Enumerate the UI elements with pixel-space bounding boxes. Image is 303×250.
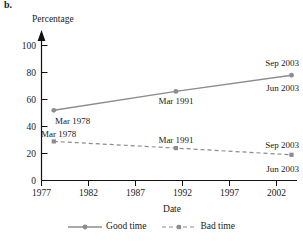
annotation-bad-sep-2003: Sep 2003 — [265, 140, 299, 150]
y-tick-40: 40 — [27, 122, 37, 132]
y-tick-80: 80 — [27, 68, 37, 78]
legend-label-bad-time: Bad time — [200, 222, 235, 232]
legend-item-good-time[interactable]: Good time — [68, 222, 146, 232]
y-axis-ticks — [42, 46, 48, 181]
y-tick-0: 0 — [31, 176, 36, 186]
x-tick-1997: 1997 — [220, 188, 239, 198]
legend-swatch-dashed-icon — [162, 222, 196, 232]
data-point — [52, 139, 56, 143]
x-tick-1977: 1977 — [32, 188, 51, 198]
annotation-good-sep-2003: Sep 2003 — [265, 58, 299, 68]
data-point — [174, 146, 178, 150]
legend-label-good-time: Good time — [106, 222, 146, 232]
x-axis-tick-labels: 1977 1982 1987 1992 1997 2002 — [32, 188, 286, 198]
x-tick-1987: 1987 — [126, 188, 145, 198]
x-axis-ticks — [42, 181, 277, 187]
y-tick-100: 100 — [22, 41, 37, 51]
x-tick-2002: 2002 — [267, 188, 286, 198]
y-tick-20: 20 — [27, 149, 37, 159]
annotation-good-mar-1978: Mar 1978 — [55, 116, 91, 126]
x-axis-title: Date — [163, 204, 181, 214]
data-point — [174, 89, 179, 94]
legend-item-bad-time[interactable]: Bad time — [162, 222, 235, 232]
series-good-time — [51, 73, 294, 113]
annotations-bad-time: Mar 1978 Mar 1991 Sep 2003 Jun 2003 — [41, 129, 300, 174]
annotation-good-mar-1991: Mar 1991 — [158, 96, 193, 106]
chart-legend: Good time Bad time — [0, 222, 303, 232]
line-chart: 0 20 40 60 80 100 Percentage 1977 1982 1… — [0, 0, 303, 218]
data-point — [289, 153, 293, 157]
data-point — [289, 73, 294, 78]
y-axis-title: Percentage — [32, 14, 74, 24]
y-axis — [38, 30, 46, 181]
y-tick-60: 60 — [27, 95, 37, 105]
legend-swatch-solid-icon — [68, 222, 102, 232]
annotation-good-jun-2003: Jun 2003 — [266, 83, 299, 93]
annotation-bad-mar-1991: Mar 1991 — [158, 135, 193, 145]
annotation-bad-mar-1978: Mar 1978 — [41, 129, 77, 139]
data-point — [51, 108, 56, 113]
annotation-bad-jun-2003: Jun 2003 — [266, 164, 299, 174]
y-axis-tick-labels: 0 20 40 60 80 100 — [22, 41, 37, 186]
x-tick-1982: 1982 — [79, 188, 98, 198]
chart-svg: 0 20 40 60 80 100 Percentage 1977 1982 1… — [0, 0, 303, 218]
x-tick-1992: 1992 — [173, 188, 192, 198]
